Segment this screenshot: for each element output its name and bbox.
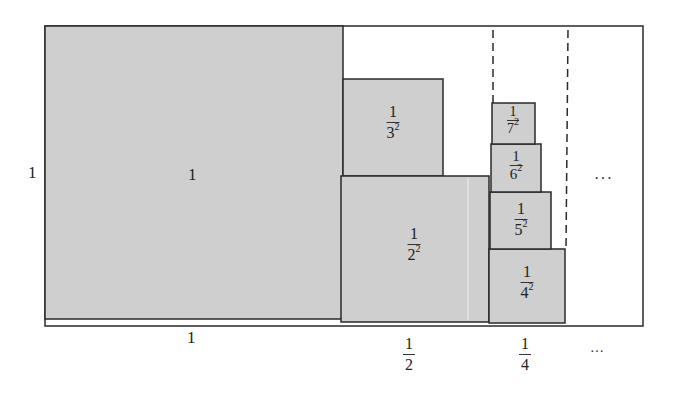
denominator: 2 — [405, 357, 413, 373]
numerator: 1 — [387, 104, 399, 120]
continuation-ellipsis: ··· — [594, 170, 613, 188]
denominator: 4 — [521, 357, 529, 373]
width-label-1: 1 — [187, 329, 196, 346]
square-1-over-2-squared-label: 1 22 — [408, 226, 421, 263]
fraction-bar — [519, 354, 531, 355]
numerator: 1 — [515, 201, 527, 217]
numerator: 1 — [403, 336, 415, 352]
square-1-over-5-squared-label: 1 52 — [515, 201, 528, 238]
numerator: 1 — [519, 336, 531, 352]
square-1-over-6-squared-label: 1 62 — [510, 149, 523, 182]
width-label-ellipsis: … — [590, 340, 605, 356]
square-1-label: 1 — [188, 166, 197, 183]
denominator: 62 — [510, 167, 523, 182]
numerator: 1 — [408, 226, 420, 242]
width-label-quarter: 1 4 — [519, 336, 531, 373]
numerator: 1 — [521, 264, 533, 280]
square-1-over-3-squared-label: 1 32 — [387, 104, 400, 141]
width-label-half: 1 2 — [403, 336, 415, 373]
denominator: 72 — [507, 122, 519, 136]
side-label-height: 1 — [28, 164, 37, 181]
square-1-over-4-squared-label: 1 42 — [521, 264, 534, 301]
denominator: 22 — [408, 247, 421, 263]
denominator: 52 — [515, 222, 528, 238]
denominator: 42 — [521, 285, 534, 301]
fraction-bar — [403, 354, 415, 355]
squares-diagram — [0, 0, 673, 394]
denominator: 32 — [387, 125, 400, 141]
square-1-over-7-squared-label: 1 72 — [507, 105, 519, 136]
